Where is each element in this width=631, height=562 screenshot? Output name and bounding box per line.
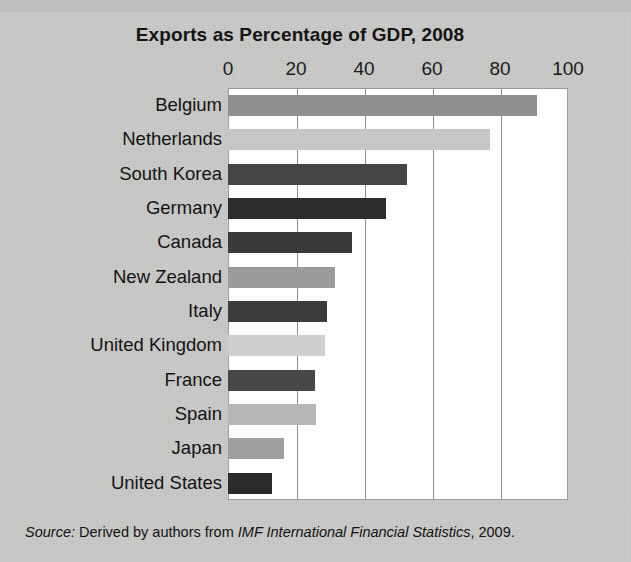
bar <box>228 438 284 459</box>
x-tick-label: 0 <box>223 58 234 80</box>
bar-row <box>228 260 568 294</box>
y-axis-label-netherlands: Netherlands <box>0 122 222 156</box>
y-axis-label-germany: Germany <box>0 191 222 225</box>
bar <box>228 164 407 185</box>
bar-row <box>228 191 568 225</box>
page-top-edge <box>0 0 631 12</box>
bar-series <box>228 88 568 500</box>
x-tick-label: 20 <box>285 58 306 80</box>
y-axis-category-labels: BelgiumNetherlandsSouth KoreaGermanyCana… <box>0 88 222 500</box>
x-tick-label: 100 <box>552 58 584 80</box>
bar <box>228 198 386 219</box>
y-axis-label-south-korea: South Korea <box>0 157 222 191</box>
y-axis-label-new-zealand: New Zealand <box>0 260 222 294</box>
bar <box>228 95 537 116</box>
bar-row <box>228 157 568 191</box>
bar <box>228 129 490 150</box>
x-tick-label: 40 <box>353 58 374 80</box>
y-axis-label-canada: Canada <box>0 225 222 259</box>
source-text-before: Derived by authors from <box>79 524 234 540</box>
bar-row <box>228 466 568 500</box>
bar <box>228 267 335 288</box>
y-axis-label-united-states: United States <box>0 466 222 500</box>
y-axis-label-france: France <box>0 363 222 397</box>
x-tick-label: 60 <box>421 58 442 80</box>
bar-row <box>228 397 568 431</box>
x-axis-tick-labels: 020406080100 <box>0 58 631 84</box>
bar-row <box>228 431 568 465</box>
chart-title: Exports as Percentage of GDP, 2008 <box>0 24 600 46</box>
bar <box>228 473 272 494</box>
source-publication: IMF International Financial Statistics <box>238 524 471 540</box>
x-tick-label: 80 <box>489 58 510 80</box>
bar-row <box>228 122 568 156</box>
y-axis-label-japan: Japan <box>0 431 222 465</box>
bar <box>228 370 315 391</box>
bar <box>228 404 316 425</box>
bar-row <box>228 225 568 259</box>
bar-row <box>228 328 568 362</box>
source-note: Source: Derived by authors from IMF Inte… <box>25 524 515 540</box>
bar-row <box>228 88 568 122</box>
y-axis-label-spain: Spain <box>0 397 222 431</box>
bar <box>228 232 352 253</box>
bar-row <box>228 363 568 397</box>
y-axis-label-italy: Italy <box>0 294 222 328</box>
source-text-after: , 2009. <box>470 524 514 540</box>
source-label: Source: <box>25 524 75 540</box>
bar <box>228 301 327 322</box>
bar-row <box>228 294 568 328</box>
bar <box>228 335 325 356</box>
y-axis-label-belgium: Belgium <box>0 88 222 122</box>
y-axis-label-united-kingdom: United Kingdom <box>0 328 222 362</box>
